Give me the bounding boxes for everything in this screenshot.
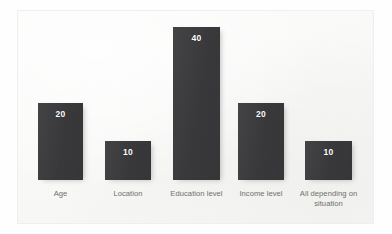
bar-group: 10 Location [105, 141, 151, 180]
bar-group: 10 All depending on situation [305, 141, 352, 180]
bar-value-label: 10 [305, 148, 352, 157]
bar-category-label: Location [89, 189, 167, 199]
bar-value-label: 10 [105, 148, 151, 157]
bar-category-label: Age [22, 189, 99, 199]
bar[interactable]: 20 [38, 103, 83, 180]
plot-area: 20 Age 10 Location 40 Education level 20… [17, 10, 374, 224]
bar[interactable]: 10 [105, 141, 151, 180]
bar-chart: 20 Age 10 Location 40 Education level 20… [0, 0, 392, 234]
bar-group: 40 Education level [173, 27, 220, 180]
bar-value-label: 20 [38, 110, 83, 119]
bar-value-label: 40 [173, 34, 220, 43]
bar-category-label: All depending on situation [289, 189, 368, 209]
bar[interactable]: 40 [173, 27, 220, 180]
bar-group: 20 Income level [238, 103, 284, 180]
bar-group: 20 Age [38, 103, 83, 180]
bar-value-label: 20 [238, 110, 284, 119]
bar[interactable]: 10 [305, 141, 352, 180]
bar[interactable]: 20 [238, 103, 284, 180]
